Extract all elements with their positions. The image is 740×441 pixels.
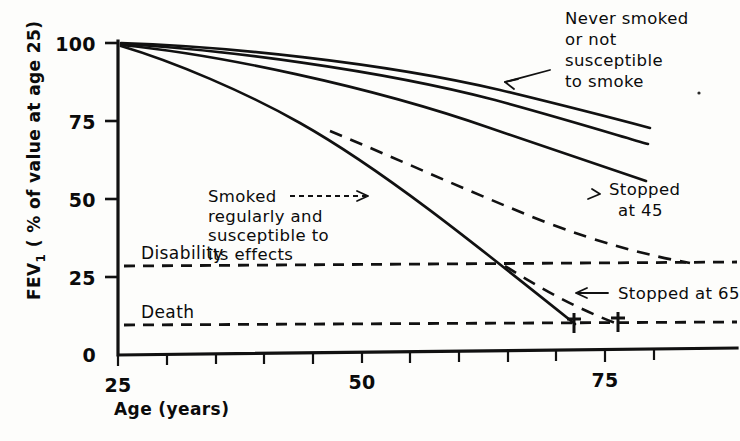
death-threshold-line xyxy=(124,322,737,325)
xtick-label-25: 25 xyxy=(104,374,131,396)
never-smoked-line-3: susceptible xyxy=(565,51,663,70)
curve-stopped-at-65 xyxy=(505,266,618,324)
never-smoked-line-1: Never smoked xyxy=(565,9,689,28)
stopped-at-65-label: Stopped at 65 xyxy=(618,284,740,303)
ytick-labels: 100 75 50 25 0 xyxy=(55,33,96,366)
stopped-at-45-line-2: at 45 xyxy=(618,201,663,220)
chart-canvas: 100 75 50 25 0 25 50 75 Age (years) FEV1… xyxy=(0,0,740,441)
annotation-stopped-at-45: Stopped at 45 xyxy=(609,180,680,220)
annotation-smoked-regularly: Smoked regularly and susceptible to its … xyxy=(208,187,329,264)
smoked-regularly-line-1: Smoked xyxy=(208,187,277,206)
y-axis-title-rest: ( % of value at age 25) xyxy=(24,21,44,254)
ytick-label-100: 100 xyxy=(55,33,96,55)
y-axis-title-group: FEV1 ( % of value at age 25) xyxy=(24,21,48,300)
axis-titles: Age (years) FEV1 ( % of value at age 25) xyxy=(24,21,229,419)
smoked-regularly-line-3: susceptible to xyxy=(208,226,329,245)
fletcher-peto-chart: 100 75 50 25 0 25 50 75 Age (years) FEV1… xyxy=(0,0,740,441)
death-markers xyxy=(567,312,625,333)
death-label: Death xyxy=(141,302,194,322)
ytick-label-75: 75 xyxy=(69,111,96,133)
ytick-label-50: 50 xyxy=(69,189,96,211)
annotation-stopped-at-65: Stopped at 65 xyxy=(618,284,740,303)
never-smoked-arrowhead xyxy=(505,79,518,89)
stopped-at-45-arrowhead xyxy=(588,189,600,199)
smoked-regularly-line-2: regularly and xyxy=(208,207,323,226)
ytick-label-0: 0 xyxy=(82,344,96,366)
never-smoked-line-4: to smoke xyxy=(565,72,644,91)
scan-speck xyxy=(697,91,700,94)
y-axis-title-subscript: 1 xyxy=(34,254,48,263)
annotation-never-smoked: Never smoked or not susceptible to smoke xyxy=(565,9,689,91)
never-smoked-line-2: or not xyxy=(565,30,617,49)
y-axis-title: FEV1 ( % of value at age 25) xyxy=(24,21,48,300)
x-axis-title: Age (years) xyxy=(114,399,229,419)
stopped-at-45-line-1: Stopped xyxy=(609,180,680,199)
curve-smoked-regularly xyxy=(121,46,575,324)
y-axis-title-main: FEV xyxy=(24,262,44,300)
ytick-label-25: 25 xyxy=(69,267,96,289)
stopped-at-65-group xyxy=(505,266,618,324)
smoked-regularly-line-4: its effects xyxy=(208,245,293,264)
xtick-label-50: 50 xyxy=(348,371,375,393)
xtick-labels: 25 50 75 xyxy=(104,369,618,396)
smoker-curve-group xyxy=(121,46,575,324)
xtick-label-75: 75 xyxy=(591,369,618,391)
